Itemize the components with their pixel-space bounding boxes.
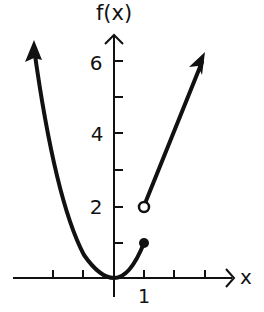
open-endpoint	[139, 202, 149, 212]
y-axis: 2 4 6 f(x)	[90, 1, 132, 297]
y-tick-label: 2	[90, 195, 103, 219]
x-axis: 1 x	[13, 265, 252, 307]
y-tick-label: 6	[90, 51, 103, 75]
y-axis-label: f(x)	[96, 1, 132, 25]
x-tick-label: 1	[138, 285, 150, 307]
parabola-curve	[34, 48, 144, 278]
linear-segment	[146, 62, 202, 201]
piecewise-function-graph: 1 x 2 4 6 f(x)	[0, 0, 264, 312]
x-axis-label: x	[240, 265, 252, 289]
y-tick-label: 4	[91, 122, 104, 146]
closed-endpoint	[139, 238, 149, 248]
